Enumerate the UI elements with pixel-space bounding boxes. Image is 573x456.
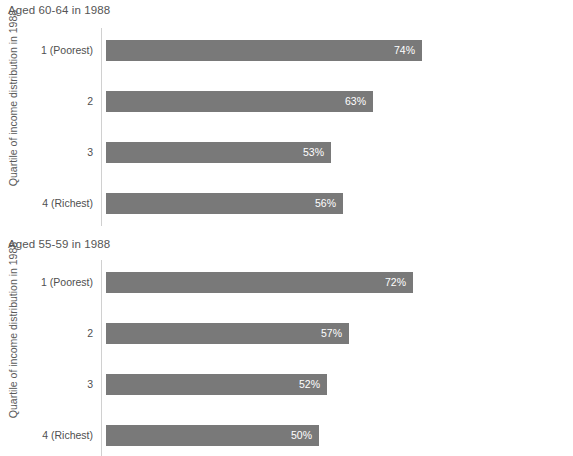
bar-row: 4 (Richest) 56% bbox=[0, 193, 573, 215]
bar-value-label: 57% bbox=[321, 327, 342, 339]
bar[interactable]: 52% bbox=[106, 374, 327, 395]
bar-value-label: 56% bbox=[315, 197, 336, 209]
category-label: 3 bbox=[0, 378, 93, 390]
bar-value-label: 74% bbox=[394, 44, 415, 56]
bar[interactable]: 74% bbox=[106, 40, 422, 61]
bar-row: 3 52% bbox=[0, 374, 573, 396]
bar[interactable]: 53% bbox=[106, 142, 331, 163]
chart-panel-aged-55-59: Aged 55-59 in 1988 Quartile of income di… bbox=[0, 234, 573, 456]
category-label: 4 (Richest) bbox=[0, 429, 93, 441]
category-label: 2 bbox=[0, 95, 93, 107]
bar-value-label: 63% bbox=[345, 95, 366, 107]
bar[interactable]: 57% bbox=[106, 323, 349, 344]
category-label: 2 bbox=[0, 327, 93, 339]
bar[interactable]: 72% bbox=[106, 272, 413, 293]
category-label: 4 (Richest) bbox=[0, 197, 93, 209]
bar-row: 1 (Poorest) 72% bbox=[0, 272, 573, 294]
bar-value-label: 52% bbox=[299, 378, 320, 390]
bar-value-label: 50% bbox=[291, 429, 312, 441]
bar[interactable]: 63% bbox=[106, 91, 373, 112]
footer-clipped-text bbox=[0, 449, 573, 456]
bar-row: 2 57% bbox=[0, 323, 573, 345]
bar[interactable]: 50% bbox=[106, 425, 319, 446]
bar[interactable]: 56% bbox=[106, 193, 343, 214]
bar-row: 4 (Richest) 50% bbox=[0, 425, 573, 447]
bar-value-label: 72% bbox=[385, 276, 406, 288]
plot-area: 1 (Poorest) 74% 2 63% 3 53% 4 (Richest) … bbox=[0, 0, 573, 232]
bar-value-label: 53% bbox=[303, 146, 324, 158]
bar-row: 3 53% bbox=[0, 142, 573, 164]
category-label: 1 (Poorest) bbox=[0, 276, 93, 288]
bar-row: 1 (Poorest) 74% bbox=[0, 40, 573, 62]
category-label: 3 bbox=[0, 146, 93, 158]
plot-area: 1 (Poorest) 72% 2 57% 3 52% 4 (Richest) … bbox=[0, 234, 573, 456]
category-label: 1 (Poorest) bbox=[0, 44, 93, 56]
chart-panel-aged-60-64: Aged 60-64 in 1988 Quartile of income di… bbox=[0, 0, 573, 232]
bar-row: 2 63% bbox=[0, 91, 573, 113]
